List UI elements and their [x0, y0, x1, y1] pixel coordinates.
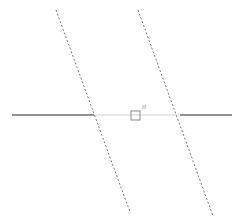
geometry-figure-svg: M — [0, 0, 244, 219]
figure-canvas: M — [0, 0, 244, 219]
marker-label: M — [142, 104, 146, 110]
canvas-background — [0, 0, 244, 219]
